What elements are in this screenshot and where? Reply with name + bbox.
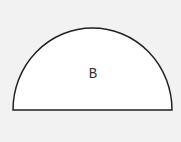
region-label: B — [83, 64, 103, 84]
diagram-canvas: B — [0, 0, 181, 142]
